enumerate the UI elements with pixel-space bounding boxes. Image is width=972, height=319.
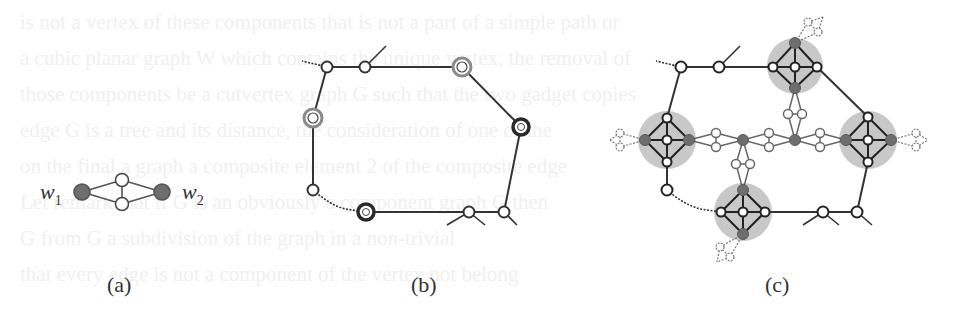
node (116, 174, 129, 187)
terminal-node-w1 (74, 184, 90, 200)
dark-ring-node (513, 119, 529, 135)
dark-ring-node (358, 204, 374, 220)
node (322, 62, 333, 73)
node (464, 207, 475, 218)
figure: w1 w2 (a) (0, 0, 972, 319)
panel-b-nodes (304, 58, 529, 220)
node (116, 198, 129, 211)
terminal-node-w2 (154, 184, 170, 200)
panel-a (74, 174, 170, 211)
node (499, 207, 510, 218)
connector-gadgets (689, 88, 846, 190)
gray-ring-node (304, 109, 322, 127)
caption-b: (b) (411, 272, 437, 297)
connector-gadget-nodes (712, 110, 825, 169)
label-w2: w2 (182, 179, 204, 208)
panel-b (302, 46, 521, 225)
node (308, 185, 319, 196)
caption-a: (a) (107, 272, 131, 297)
caption-c: (c) (765, 272, 789, 297)
gray-ring-node (453, 58, 471, 76)
node (360, 62, 371, 73)
label-w1: w1 (40, 179, 62, 208)
